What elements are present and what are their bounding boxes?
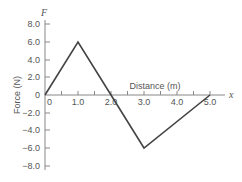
y-tick-label: 0	[35, 90, 40, 100]
y-tick-label: 8.0	[27, 19, 40, 29]
y-tick-label: 4.0	[27, 55, 40, 65]
y-tick-label: −6.0	[22, 143, 40, 153]
y-axis-title: Force (N)	[12, 76, 22, 114]
x-tick-label: 4.0	[171, 97, 184, 107]
x-ticks	[62, 91, 211, 95]
x-tick-label: 3.0	[138, 97, 151, 107]
x-axis-title: Distance (m)	[129, 81, 180, 91]
y-tick-label: −8.0	[22, 161, 40, 171]
x-tick-label: 1.0	[72, 97, 85, 107]
y-tick-label: −4.0	[22, 125, 40, 135]
y-axis-variable: F	[40, 7, 48, 18]
y-tick-label: 2.0	[27, 72, 40, 82]
x-axis-variable: x	[228, 89, 234, 100]
force-distance-chart: 8.0 6.0 4.0 2.0 0 −2.0 −4.0 −6.0 −8.0 0 …	[0, 0, 242, 182]
y-tick-label: 6.0	[27, 37, 40, 47]
y-tick-label: −2.0	[22, 108, 40, 118]
x-tick-label: 0	[47, 97, 52, 107]
